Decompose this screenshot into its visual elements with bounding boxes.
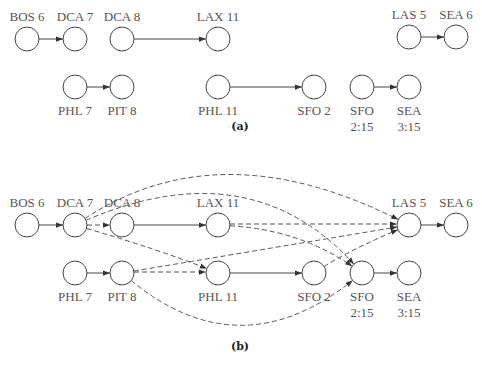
- node-circle: [15, 27, 39, 51]
- node-phl11: PHL 11: [198, 75, 238, 118]
- node-sfo215: SFO2:15: [350, 75, 374, 134]
- panel-caption-b: (b): [231, 340, 249, 353]
- node-label: SEA 6: [439, 195, 473, 210]
- node-circle: [206, 27, 230, 51]
- node-pit8: PIT 8: [107, 261, 136, 304]
- node-phl7: PHL 7: [58, 75, 92, 118]
- node-label: PIT 8: [107, 289, 136, 304]
- node-label: SFO: [350, 103, 374, 118]
- node-label: SFO 2: [297, 103, 331, 118]
- node-circle: [110, 27, 134, 51]
- edge-dca7-to-phl11: [87, 228, 207, 268]
- node-circle: [302, 75, 326, 99]
- panel-b: BOS 6DCA 7DCA 8LAX 11LAS 5SEA 6PHL 7PIT …: [9, 175, 473, 353]
- node-bos6: BOS 6: [9, 195, 45, 237]
- node-pit8: PIT 8: [107, 75, 136, 118]
- panel-a: BOS 6DCA 7DCA 8LAX 11LAS 5SEA 6PHL 7PIT …: [9, 7, 473, 134]
- node-circle: [397, 25, 421, 49]
- node-dca8: DCA 8: [104, 9, 140, 51]
- node-label: LAX 11: [197, 195, 240, 210]
- node-sfo215: SFO2:15: [350, 261, 374, 320]
- node-dca7: DCA 7: [57, 9, 94, 51]
- node-label: LAX 11: [197, 9, 240, 24]
- edges: [39, 175, 444, 326]
- node-label: LAS 5: [392, 7, 426, 22]
- node-circle: [444, 25, 468, 49]
- node-lax11: LAX 11: [197, 195, 240, 237]
- node-label: PIT 8: [107, 103, 136, 118]
- node-label: SEA: [397, 289, 422, 304]
- node-las5: LAS 5: [392, 195, 426, 237]
- edges: [39, 37, 444, 87]
- node-circle: [110, 75, 134, 99]
- node-label: PHL 11: [198, 289, 238, 304]
- node-circle: [206, 213, 230, 237]
- node-label: 2:15: [350, 119, 373, 134]
- node-circle: [15, 213, 39, 237]
- node-label: DCA 7: [57, 195, 94, 210]
- node-circle: [110, 213, 134, 237]
- node-circle: [444, 213, 468, 237]
- node-label: PHL 11: [198, 103, 238, 118]
- node-label: DCA 8: [104, 9, 140, 24]
- node-phl7: PHL 7: [58, 261, 92, 304]
- node-label: SFO: [350, 289, 374, 304]
- flight-connection-diagram: BOS 6DCA 7DCA 8LAX 11LAS 5SEA 6PHL 7PIT …: [0, 0, 482, 367]
- node-circle: [397, 213, 421, 237]
- node-circle: [63, 75, 87, 99]
- node-label: BOS 6: [9, 9, 45, 24]
- node-circle: [350, 75, 374, 99]
- node-circle: [63, 213, 87, 237]
- node-circle: [63, 27, 87, 51]
- node-las5: LAS 5: [392, 7, 426, 49]
- node-sea6: SEA 6: [439, 7, 473, 49]
- node-sea6: SEA 6: [439, 195, 473, 237]
- node-circle: [350, 261, 374, 285]
- node-circle: [397, 75, 421, 99]
- node-label: PHL 7: [58, 103, 92, 118]
- node-circle: [397, 261, 421, 285]
- node-circle: [63, 261, 87, 285]
- node-label: DCA 7: [57, 9, 94, 24]
- node-label: 3:15: [397, 305, 420, 320]
- node-dca8: DCA 8: [104, 195, 140, 237]
- node-sfo2: SFO 2: [297, 261, 331, 304]
- node-label: BOS 6: [9, 195, 45, 210]
- nodes: BOS 6DCA 7DCA 8LAX 11LAS 5SEA 6PHL 7PIT …: [9, 195, 473, 320]
- panel-caption-a: (a): [231, 120, 249, 133]
- node-sea315: SEA3:15: [397, 261, 422, 320]
- node-label: SEA: [397, 103, 422, 118]
- node-circle: [206, 75, 230, 99]
- nodes: BOS 6DCA 7DCA 8LAX 11LAS 5SEA 6PHL 7PIT …: [9, 7, 473, 134]
- node-circle: [302, 261, 326, 285]
- node-label: 3:15: [397, 119, 420, 134]
- node-label: PHL 7: [58, 289, 92, 304]
- node-label: SEA 6: [439, 7, 473, 22]
- node-sea315: SEA3:15: [397, 75, 422, 134]
- node-label: DCA 8: [104, 195, 140, 210]
- node-bos6: BOS 6: [9, 9, 45, 51]
- node-label: 2:15: [350, 305, 373, 320]
- node-lax11: LAX 11: [197, 9, 240, 51]
- node-circle: [110, 261, 134, 285]
- node-circle: [206, 261, 230, 285]
- node-label: LAS 5: [392, 195, 426, 210]
- node-label: SFO 2: [297, 289, 331, 304]
- node-sfo2: SFO 2: [297, 75, 331, 118]
